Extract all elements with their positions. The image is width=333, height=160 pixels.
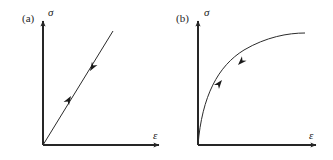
panel-b-label: (b)	[176, 13, 189, 24]
figure-canvas	[0, 0, 333, 160]
panel-a-xaxis-label: ε	[153, 130, 157, 141]
panel-a-stress-strain-line	[43, 31, 113, 145]
panel-a-loading-arrow	[64, 94, 74, 105]
panel-b-stress-strain-curve	[198, 33, 305, 145]
panel-a-yaxis-label: σ	[48, 7, 53, 18]
panel-a-label: (a)	[22, 13, 34, 24]
panel-b-xaxis-label: ε	[309, 130, 313, 141]
panel-b-yaxis-label: σ	[204, 7, 209, 18]
panel-a	[43, 21, 159, 145]
panel-b-unloading-arrow	[236, 56, 247, 67]
panel-b	[198, 21, 316, 145]
stress-strain-figure: (a) σ ε (b) σ ε	[0, 0, 333, 160]
